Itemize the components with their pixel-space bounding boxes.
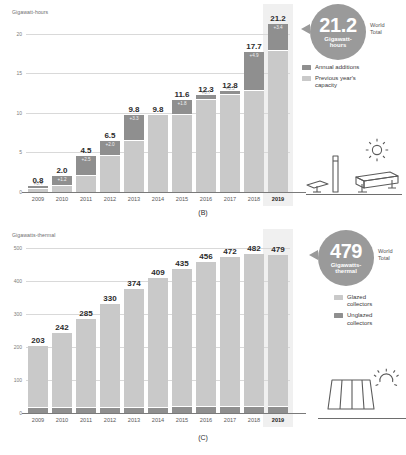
segment-unglazed-2011: [76, 407, 95, 413]
segment-previous-capacity-2012: [100, 156, 119, 192]
bar-2010[interactable]: 242: [52, 333, 71, 413]
y-tick-400: 400: [8, 278, 22, 284]
bar-2009[interactable]: +0.40.8: [28, 186, 47, 192]
bar-2018[interactable]: 482: [244, 254, 263, 413]
segment-unglazed-2014: [148, 407, 167, 413]
bar-2010[interactable]: +1.22.0: [52, 176, 71, 192]
bar-2016[interactable]: 456: [196, 262, 215, 413]
panel-b-world-total-callout: 21.2 Gigawatt- hours: [310, 4, 366, 60]
bar-2013[interactable]: 374: [124, 289, 143, 413]
x-label-2019: 2019: [272, 196, 284, 202]
segment-previous-capacity-2011: [76, 176, 95, 192]
panel-c-total-label: Total: [378, 255, 393, 262]
legend-label-previous-capacity-line1: Previous year's: [315, 75, 356, 82]
bar-series: 203242285330374409435456472482479: [26, 241, 290, 413]
bar-total-label-2015: 435: [175, 259, 188, 268]
legend-swatch-unglazed-collectors: [334, 313, 343, 318]
segment-annual-additions-2010: +1.2: [52, 176, 71, 185]
segment-previous-capacity-2014: [148, 115, 167, 193]
segment-annual-additions-2011: +2.5: [76, 156, 95, 176]
bar-2015[interactable]: +1.811.6: [172, 100, 191, 192]
bar-2017[interactable]: 472: [220, 257, 239, 413]
panel-b-callout-unit-line2: hours: [324, 42, 351, 48]
x-label-2009: 2009: [32, 196, 44, 202]
segment-unglazed-2017: [220, 406, 239, 413]
solar-thermal-collector-icon: [328, 380, 374, 409]
legend-swatch-annual-additions: [302, 65, 311, 70]
bar-total-label-2013: 9.8: [128, 105, 139, 114]
panel-c-solar-thermal: Gigawatts-thermal 0100200300400500203242…: [0, 228, 406, 455]
bar-2011[interactable]: +2.54.5: [76, 156, 95, 192]
bar-2017[interactable]: +0.512.8: [220, 91, 239, 192]
legend-label-unglazed-line1: Unglazed: [347, 312, 372, 319]
bar-total-label-2015: 11.6: [174, 90, 189, 99]
legend-swatch-glazed-collectors: [334, 295, 343, 300]
segment-unglazed-2018: [244, 406, 263, 413]
legend-label-annual-additions: Annual additions: [315, 64, 359, 71]
bar-2019[interactable]: +3.421.2: [268, 24, 287, 192]
segment-previous-capacity-2009: [28, 189, 47, 192]
segment-unglazed-2019: [268, 406, 287, 413]
segment-previous-capacity-2013: [124, 141, 143, 192]
bar-2014[interactable]: 409: [148, 278, 167, 413]
segment-glazed-2013: [124, 289, 143, 407]
y-tick-20: 20: [8, 31, 22, 37]
bar-total-label-2019: 479: [271, 245, 284, 254]
segment-glazed-2016: [196, 262, 215, 406]
legend-item-glazed-collectors: Glazed collectors: [334, 294, 406, 308]
segment-glazed-2017: [220, 257, 239, 407]
bar-total-label-2016: 12.3: [198, 85, 214, 94]
x-label-2014: 2014: [152, 196, 164, 202]
segment-glazed-2011: [76, 319, 95, 408]
panel-c-caption: (C): [0, 434, 406, 441]
bar-2012[interactable]: 330: [100, 304, 119, 413]
x-label-2018: 2018: [248, 196, 260, 202]
panel-b-y-axis-title: Gigawatt-hours: [12, 9, 48, 15]
segment-glazed-2015: [172, 269, 191, 406]
segment-unglazed-2015: [172, 406, 191, 413]
panel-c-y-axis-title: Gigawatts-thermal: [12, 232, 55, 238]
segment-annual-additions-2013: +3.3: [124, 115, 143, 141]
segment-previous-capacity-2016: [196, 100, 215, 192]
segment-unglazed-2009: [28, 407, 47, 413]
segment-glazed-2014: [148, 278, 167, 407]
bar-2014[interactable]: 9.8: [148, 115, 167, 193]
y-tick-0: 0: [8, 189, 22, 195]
panel-b-illustration: [306, 138, 402, 196]
bar-2015[interactable]: 435: [172, 269, 191, 413]
sun-icon: [374, 369, 399, 386]
panel-b-legend: Annual additions Previous year's capacit…: [302, 64, 402, 94]
legend-label-glazed-line2: collectors: [347, 301, 372, 308]
gridline-0: [22, 413, 306, 414]
panel-c-legend: Glazed collectors Unglazed collectors: [334, 294, 406, 331]
bar-series: +0.40.8+1.22.0+2.54.5+2.06.5+3.39.89.8+1…: [26, 18, 290, 192]
bar-total-label-2018: 482: [247, 244, 260, 253]
bar-2009[interactable]: 203: [28, 346, 47, 413]
sublabel-2012: +2.0: [105, 142, 114, 147]
legend-swatch-previous-years-capacity: [302, 76, 311, 81]
bar-total-label-2009: 0.8: [32, 176, 43, 185]
sublabel-2019: +3.4: [273, 25, 282, 30]
segment-glazed-2019: [268, 255, 287, 407]
bar-2016[interactable]: +0.712.3: [196, 95, 215, 192]
segment-unglazed-2012: [100, 407, 119, 413]
bar-2011[interactable]: 285: [76, 319, 95, 413]
bar-2019[interactable]: 479: [268, 255, 287, 413]
panel-c-callout-tail-icon: [309, 250, 318, 260]
bar-2012[interactable]: +2.06.5: [100, 141, 119, 192]
bar-2018[interactable]: +4.917.7: [244, 52, 263, 192]
segment-previous-capacity-2018: [244, 91, 263, 192]
solar-panel-icon: [307, 181, 328, 192]
bar-2013[interactable]: +3.39.8: [124, 115, 143, 193]
y-tick-15: 15: [8, 70, 22, 76]
panel-c-world-total-callout: 479 Gigawatts- thermal: [318, 230, 374, 286]
legend-label-previous-capacity-line2: capacity: [315, 82, 356, 89]
legend-item-unglazed-collectors: Unglazed collectors: [334, 312, 406, 326]
segment-previous-capacity-2017: [220, 95, 239, 192]
y-tick-0: 0: [8, 410, 22, 416]
y-tick-5: 5: [8, 149, 22, 155]
segment-annual-additions-2012: +2.0: [100, 141, 119, 157]
gridline-0: [22, 192, 306, 193]
legend-item-annual-additions: Annual additions: [302, 64, 402, 71]
x-label-2019: 2019: [272, 417, 284, 423]
